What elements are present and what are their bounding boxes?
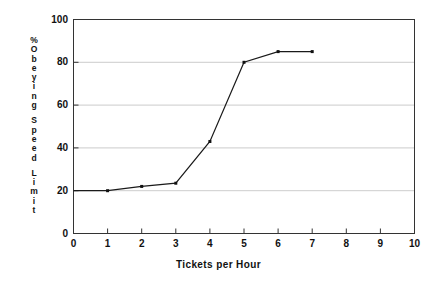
data-line-series [74,52,313,191]
x-tick-label: 4 [195,238,225,249]
data-point-markers [106,50,314,192]
data-point-marker [243,61,246,64]
data-point-marker [140,185,143,188]
x-tick-label: 7 [297,238,327,249]
x-tick-label: 6 [263,238,293,249]
data-point-marker [174,182,177,185]
x-tick-label: 0 [59,238,89,249]
x-tick-label: 3 [161,238,191,249]
x-tick-label: 2 [127,238,157,249]
data-point-marker [311,50,314,53]
gridlines [74,62,415,190]
x-axis-title: Tickets per Hour [0,259,437,270]
data-point-marker [208,140,211,143]
y-axis-ticks [74,62,79,190]
x-tick-label: 8 [331,238,361,249]
chart-container: %Obeying Speed Limit 020406080100 012345… [0,0,437,282]
x-tick-label: 5 [229,238,259,249]
data-point-marker [106,189,109,192]
y-tick-label: 40 [40,142,68,153]
y-tick-label: 80 [40,56,68,67]
x-tick-label: 9 [365,238,395,249]
x-axis-ticks [108,229,381,234]
x-tick-label: 10 [400,238,430,249]
x-tick-label: 1 [93,238,123,249]
y-tick-label: 100 [40,14,68,25]
data-point-marker [277,50,280,53]
y-tick-label: 20 [40,185,68,196]
y-tick-label: 60 [40,99,68,110]
y-tick-label: 0 [40,228,68,239]
plot-frame [74,20,415,234]
